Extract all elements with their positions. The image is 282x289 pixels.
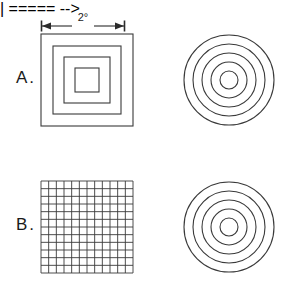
stimulus-figure: | ===== --> 2° A. [0, 0, 282, 289]
panel-a-concentric-circles [182, 33, 276, 127]
dimension-label: 2° [40, 12, 126, 23]
panel-label-b: B. [16, 216, 36, 233]
panel-b-concentric-circles [182, 180, 276, 274]
dimension-annotation: 2° [40, 12, 126, 34]
panel-a-concentric-squares [40, 33, 134, 127]
panel-b-grid [40, 180, 134, 274]
panel-label-a: A. [16, 69, 36, 86]
